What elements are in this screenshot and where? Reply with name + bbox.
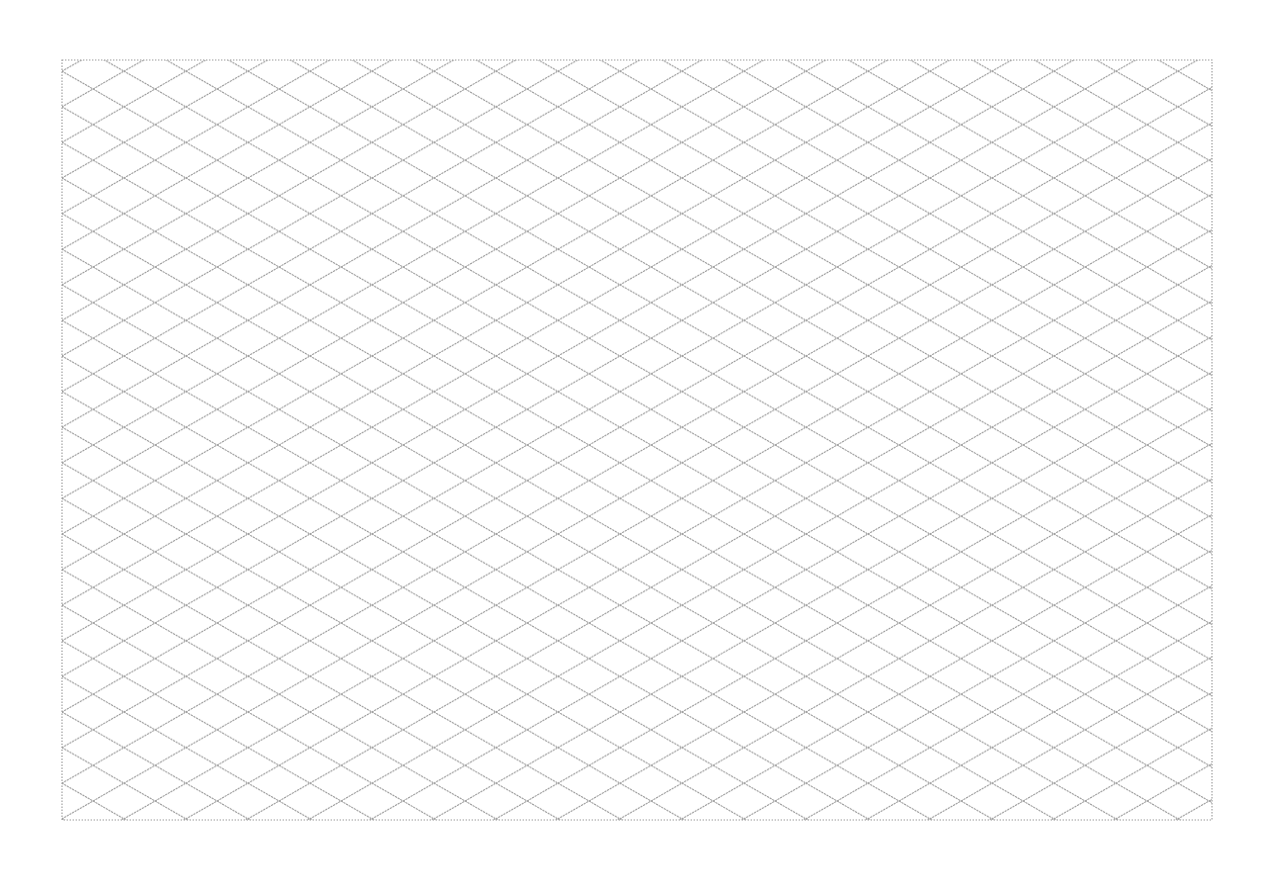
grid-lines: [62, 60, 1212, 820]
isometric-grid-sheet: [0, 0, 1277, 871]
